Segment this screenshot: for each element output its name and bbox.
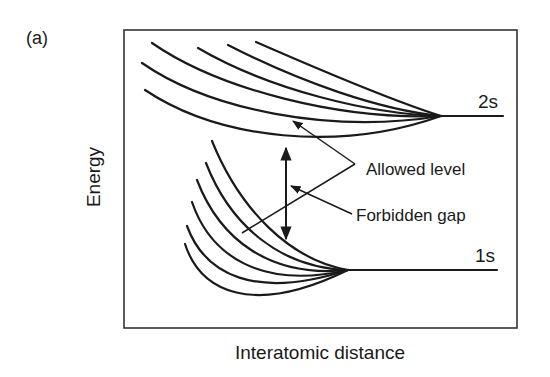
band-1s-curve xyxy=(185,244,348,295)
allowed-level-label: Allowed level xyxy=(366,160,465,179)
forbidden-gap-pointer xyxy=(291,186,352,214)
level-label-2s: 2s xyxy=(478,91,498,112)
level-label-1s: 1s xyxy=(475,245,495,266)
band-2s-curve xyxy=(152,43,441,116)
forbidden-gap-label: Forbidden gap xyxy=(356,206,466,225)
band-1s-curve xyxy=(212,141,348,270)
energy-band-diagram: 2s 1s Allowed level Forbidden gap xyxy=(0,0,550,377)
band-2s xyxy=(142,42,503,137)
plot-frame xyxy=(124,30,517,328)
